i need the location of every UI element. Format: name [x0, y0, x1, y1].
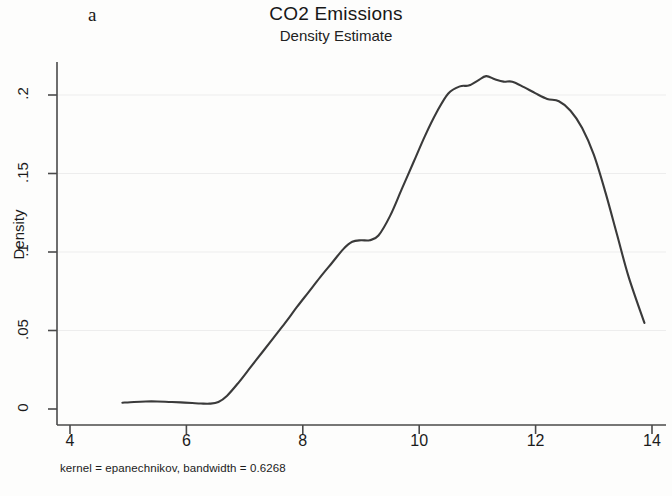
density-curve [122, 76, 644, 404]
x-tick-label: 12 [516, 432, 556, 450]
kernel-footnote: kernel = epanechnikov, bandwidth = 0.626… [60, 462, 286, 474]
y-tick-label: .1 [14, 231, 31, 271]
figure-panel: a CO2 Emissions Density Estimate Density… [0, 0, 672, 496]
y-tick-label: .05 [14, 309, 31, 349]
y-tick-marks [48, 95, 57, 409]
x-tick-label: 10 [399, 432, 439, 450]
y-tick-label: .2 [14, 74, 31, 114]
x-tick-label: 4 [50, 432, 90, 450]
y-tick-label: .15 [14, 152, 31, 192]
y-tick-label: 0 [14, 388, 31, 428]
gridlines [58, 95, 666, 331]
x-tick-label: 8 [283, 432, 323, 450]
density-plot [0, 0, 672, 496]
x-tick-label: 6 [166, 432, 206, 450]
x-tick-label: 14 [632, 432, 672, 450]
x-tick-marks [70, 425, 652, 434]
